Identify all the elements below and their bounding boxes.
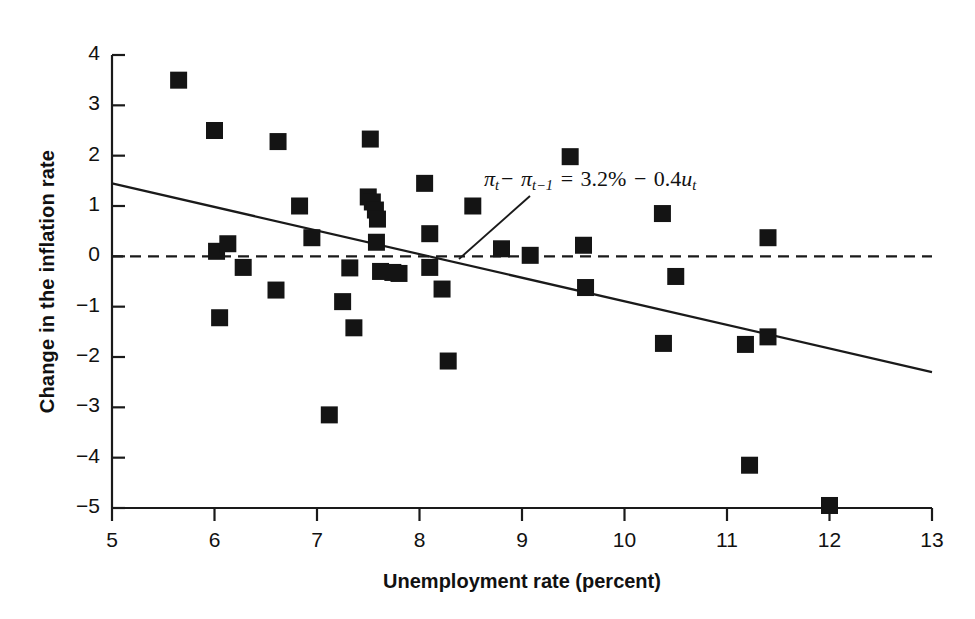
- data-point-marker: [760, 229, 777, 246]
- data-point-marker: [345, 319, 362, 336]
- x-tick-label: 13: [909, 528, 955, 552]
- data-point-marker: [464, 198, 481, 215]
- x-tick-label: 8: [397, 528, 443, 552]
- slope-value: 0.4: [654, 166, 682, 191]
- pi-subscript-t-minus-1: t−1: [532, 177, 553, 193]
- data-point-marker: [270, 133, 287, 150]
- minus-sign-1: −: [499, 166, 515, 191]
- regression-line-group: [112, 183, 932, 372]
- data-point-marker: [577, 279, 594, 296]
- data-point-marker: [416, 175, 433, 192]
- equals-sign: =: [559, 166, 575, 191]
- y-tick-label: −4: [54, 444, 100, 468]
- data-point-marker: [211, 309, 228, 326]
- data-point-marker: [493, 240, 510, 257]
- data-point-marker: [368, 234, 385, 251]
- y-tick-label: 1: [54, 192, 100, 216]
- x-tick-label: 7: [294, 528, 340, 552]
- phillips-curve-scatter-figure: 43210−1−2−3−4−55678910111213 Change in t…: [0, 0, 975, 619]
- u-symbol: u: [681, 166, 692, 191]
- data-point-marker: [655, 335, 672, 352]
- data-point-marker: [391, 265, 408, 282]
- y-tick-label: 3: [54, 91, 100, 115]
- x-axis-title: Unemployment rate (percent): [112, 570, 932, 593]
- data-point-marker: [575, 237, 592, 254]
- data-point-marker: [369, 211, 386, 228]
- data-point-marker: [219, 235, 236, 252]
- data-point-marker: [362, 131, 379, 148]
- data-point-marker: [737, 336, 754, 353]
- data-point-marker: [341, 259, 358, 276]
- pi-symbol-1: π: [484, 166, 495, 191]
- x-tick-label: 5: [89, 528, 135, 552]
- y-tick-label: −5: [54, 494, 100, 518]
- data-point-marker: [291, 198, 308, 215]
- y-axis-title: Change in the inflation rate: [36, 117, 59, 447]
- data-point-marker: [440, 353, 457, 370]
- data-point-marker: [268, 282, 285, 299]
- x-tick-label: 6: [192, 528, 238, 552]
- y-tick-label: −2: [54, 343, 100, 367]
- data-point-marker: [303, 229, 320, 246]
- data-point-marker: [821, 497, 838, 514]
- x-tick-label: 10: [602, 528, 648, 552]
- intercept-value: 3.2%: [581, 166, 627, 191]
- regression-equation-annotation: πt− πt−1 = 3.2% − 0.4ut: [484, 166, 696, 194]
- minus-sign-2: −: [632, 166, 648, 191]
- data-point-marker: [667, 268, 684, 285]
- data-point-marker: [760, 328, 777, 345]
- data-point-marker: [421, 259, 438, 276]
- plot-canvas: [0, 0, 975, 619]
- data-point-marker: [562, 148, 579, 165]
- pi-symbol-2: π: [521, 166, 532, 191]
- data-point-marker: [741, 457, 758, 474]
- y-tick-label: 0: [54, 242, 100, 266]
- data-point-marker: [654, 205, 671, 222]
- x-tick-label: 9: [499, 528, 545, 552]
- data-point-marker: [334, 293, 351, 310]
- u-subscript-t: t: [692, 177, 696, 193]
- data-point-marker: [434, 281, 451, 298]
- x-tick-label: 12: [807, 528, 853, 552]
- data-point-marker: [206, 122, 223, 139]
- y-tick-label: −3: [54, 393, 100, 417]
- data-point-marker: [321, 406, 338, 423]
- y-tick-label: 2: [54, 142, 100, 166]
- data-points-group: [170, 72, 838, 514]
- y-tick-label: 4: [54, 41, 100, 65]
- data-point-marker: [421, 225, 438, 242]
- axes-group: [112, 55, 932, 521]
- data-point-marker: [170, 72, 187, 89]
- regression-fit-line: [112, 183, 932, 372]
- data-point-marker: [522, 247, 539, 264]
- y-tick-label: −1: [54, 293, 100, 317]
- data-point-marker: [235, 259, 252, 276]
- x-tick-label: 11: [704, 528, 750, 552]
